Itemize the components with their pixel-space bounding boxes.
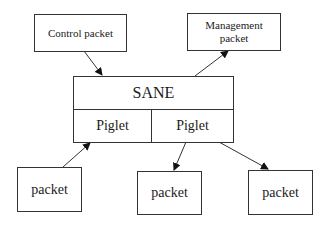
packet-middle-label: packet — [151, 185, 188, 201]
management-packet-label: Management packet — [202, 19, 266, 45]
sane-box: SANE Piglet Piglet — [73, 76, 234, 143]
packet-right-label: packet — [262, 185, 299, 201]
control-packet-label: Control packet — [48, 27, 113, 40]
arrow-piglet-to-packet-right — [219, 142, 268, 169]
piglet-left-label: Piglet — [96, 118, 129, 134]
arrow-sane-to-management — [195, 51, 228, 76]
arrow-piglet-to-packet-middle — [174, 142, 186, 170]
sane-label: SANE — [133, 84, 175, 102]
arrow-control-to-sane — [84, 51, 102, 75]
arrow-packet-to-piglet — [63, 143, 90, 167]
sane-header: SANE — [74, 77, 233, 110]
piglet-left-cell: Piglet — [74, 110, 152, 142]
packet-right-box: packet — [248, 170, 313, 215]
packet-left-label: packet — [31, 182, 68, 198]
piglet-right-label: Piglet — [176, 118, 209, 134]
packet-middle-box: packet — [137, 171, 202, 215]
packet-left-box: packet — [17, 167, 82, 212]
piglet-right-cell: Piglet — [152, 110, 233, 142]
control-packet-box: Control packet — [34, 14, 127, 52]
management-packet-box: Management packet — [187, 13, 281, 51]
